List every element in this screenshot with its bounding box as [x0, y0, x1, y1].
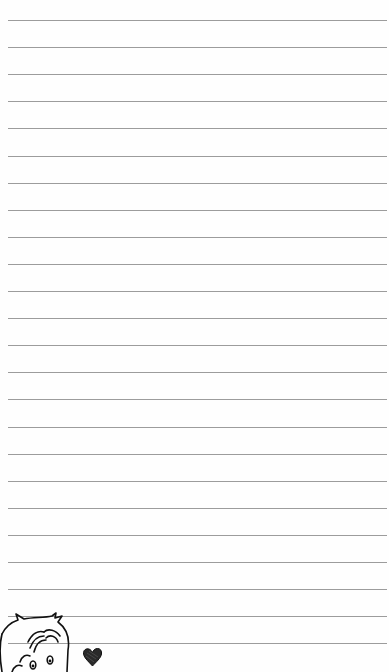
ruled-line [8, 264, 387, 265]
ruled-line [8, 454, 387, 455]
ruled-line [8, 183, 387, 184]
ruled-line [8, 47, 387, 48]
ruled-line [8, 345, 387, 346]
lined-paper [0, 0, 389, 672]
ruled-line [8, 128, 387, 129]
cartoon-boy-icon [0, 612, 75, 672]
ruled-line [8, 535, 387, 536]
ruled-line [8, 589, 387, 590]
ruled-line [8, 20, 387, 21]
ruled-line [8, 210, 387, 211]
ruled-line [8, 74, 387, 75]
ruled-line [8, 562, 387, 563]
ruled-line [8, 318, 387, 319]
ruled-line [8, 399, 387, 400]
heart-icon [82, 647, 103, 667]
ruled-line [8, 156, 387, 157]
ruled-line [8, 101, 387, 102]
ruled-line [8, 481, 387, 482]
ruled-line [8, 237, 387, 238]
ruled-line [8, 427, 387, 428]
ruled-line [8, 372, 387, 373]
ruled-line [8, 508, 387, 509]
ruled-line [8, 291, 387, 292]
